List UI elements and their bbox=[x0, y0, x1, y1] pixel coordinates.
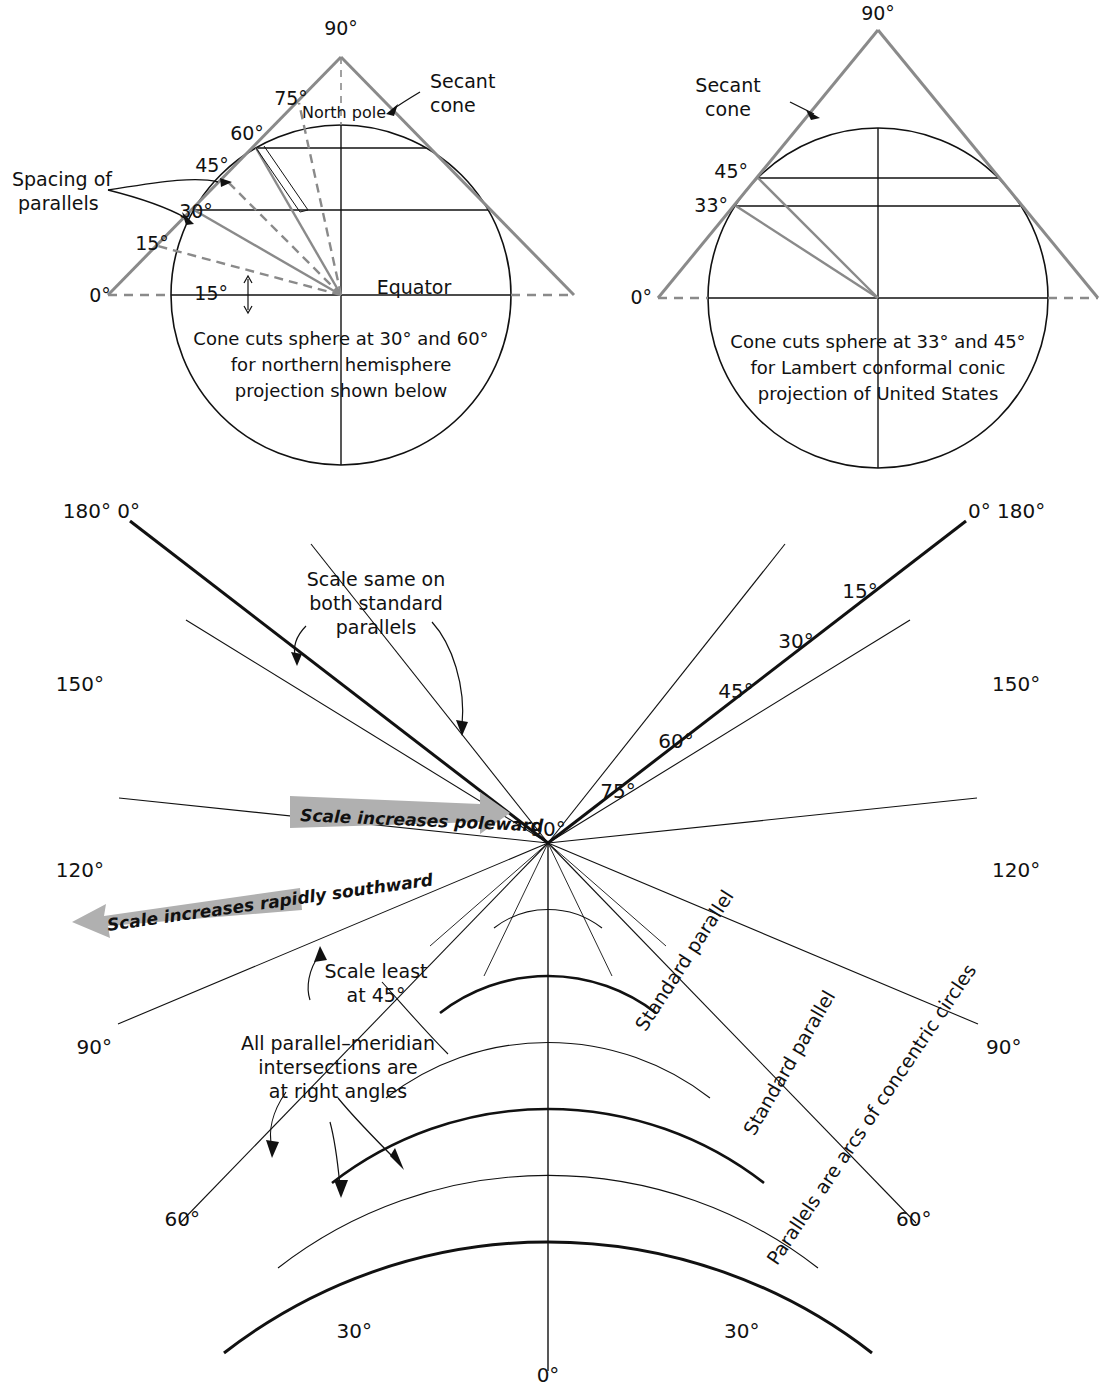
meridian-left-120 bbox=[118, 843, 548, 1024]
right-caption-1: Cone cuts sphere at 33° and 45° bbox=[730, 331, 1025, 352]
banner-poleward-text: Scale increases poleward bbox=[300, 805, 545, 836]
lat-label-45: 45° bbox=[718, 679, 753, 703]
arrowhead-right-angles-c bbox=[334, 1180, 348, 1198]
left-cone-diagram: 90° 75° 60° 45° 30° 15° 0° Secant cone N… bbox=[0, 0, 600, 480]
anatolia-shape bbox=[610, 1060, 684, 1092]
pole-label: 90° bbox=[530, 817, 565, 841]
greenland-shape bbox=[444, 862, 528, 976]
left-label-60: 60° bbox=[230, 122, 264, 144]
right-meridian-label-90: 90° bbox=[986, 1035, 1021, 1059]
europe-shape bbox=[430, 988, 614, 1136]
ann-standard-parallel-inner: Standard parallel bbox=[630, 886, 737, 1035]
ann-right-angles-3: at right angles bbox=[269, 1080, 407, 1102]
africa-shape bbox=[436, 1120, 756, 1362]
interior-angle-label: 15° bbox=[194, 282, 228, 304]
cone-right-side-right bbox=[878, 30, 1098, 298]
left-label-45: 45° bbox=[195, 154, 229, 176]
right-cone-diagram: 90° 45° 33° 0° Secant cone Cone cuts sph… bbox=[600, 0, 1119, 480]
spacing-leader-lower bbox=[108, 190, 186, 218]
ann-scale-same-3: parallels bbox=[336, 616, 417, 638]
right-caption-2: for Lambert conformal conic bbox=[751, 357, 1006, 378]
secant-cone-leader-right bbox=[790, 102, 814, 114]
arabia-shape bbox=[680, 1148, 746, 1216]
secant-cone-label-right-2: cone bbox=[705, 98, 751, 120]
ann-standard-parallel-outer: Standard parallel bbox=[739, 986, 840, 1138]
left-label-0: 0° bbox=[89, 284, 111, 306]
arrowhead-scale-same-right bbox=[456, 720, 468, 736]
radius-60 bbox=[256, 148, 341, 295]
north-pole-label: North pole bbox=[302, 103, 386, 122]
spacing-label-2: parallels bbox=[18, 192, 99, 214]
radius-45-right bbox=[758, 178, 878, 298]
construction-line-a bbox=[256, 148, 300, 212]
secant-cone-label-2: cone bbox=[430, 94, 476, 116]
left-meridian-label-120: 120° bbox=[56, 858, 104, 882]
secant-cone-label-1: Secant bbox=[430, 70, 495, 92]
banner-southward: Scale increases rapidly southward bbox=[72, 869, 435, 938]
iberia-shape bbox=[512, 1086, 548, 1118]
left-caption-2: for northern hemisphere bbox=[231, 354, 451, 375]
main-projection-diagram: Scale increases poleward Scale increases… bbox=[0, 476, 1119, 1396]
radius-33 bbox=[736, 206, 878, 298]
ann-scale-least-1: Scale least bbox=[324, 960, 427, 982]
right-label-0: 0° bbox=[630, 286, 652, 308]
figure-root: 90° 75° 60° 45° 30° 15° 0° Secant cone N… bbox=[0, 0, 1119, 1396]
left-label-30: 30° bbox=[179, 200, 213, 222]
banner-southward-text: Scale increases rapidly southward bbox=[106, 869, 435, 935]
leader-scale-same-right bbox=[432, 622, 463, 726]
meridian-right-120 bbox=[548, 843, 978, 1024]
right-label-45: 45° bbox=[714, 160, 748, 182]
arrowhead-scale-same-left bbox=[291, 652, 302, 666]
lat-label-60: 60° bbox=[658, 729, 693, 753]
right-meridian-label-60: 60° bbox=[896, 1207, 931, 1231]
corner-right-label: 0° 180° bbox=[968, 499, 1045, 523]
left-meridian-label-60: 60° bbox=[165, 1207, 200, 1231]
ann-right-angles-1: All parallel–meridian bbox=[241, 1032, 435, 1054]
lat-label-75: 75° bbox=[600, 779, 635, 803]
meridian-right-90 bbox=[548, 798, 977, 843]
ann-scale-least-2: at 45° bbox=[347, 984, 406, 1006]
right-caption-3: projection of United States bbox=[758, 383, 999, 404]
spacing-leader-upper bbox=[108, 180, 218, 190]
banner-poleward: Scale increases poleward bbox=[290, 792, 544, 836]
left-label-90: 90° bbox=[324, 17, 358, 39]
ann-concentric-circles: Parallels are arcs of concentric circles bbox=[762, 960, 980, 1269]
left-meridian-label-30: 30° bbox=[337, 1319, 372, 1343]
equator-label: Equator bbox=[377, 276, 452, 298]
spacing-label-1: Spacing of bbox=[12, 168, 113, 190]
right-meridian-label-150: 150° bbox=[992, 672, 1040, 696]
right-label-33: 33° bbox=[694, 194, 728, 216]
leader-right-angles-c bbox=[330, 1122, 340, 1186]
left-label-15: 15° bbox=[135, 232, 169, 254]
left-meridian-label-90: 90° bbox=[77, 1035, 112, 1059]
corner-left-label: 180° 0° bbox=[63, 499, 140, 523]
left-meridian-label-150: 150° bbox=[56, 672, 104, 696]
leader-right-angles-b bbox=[338, 1098, 398, 1162]
left-caption-3: projection shown below bbox=[235, 380, 448, 401]
right-meridian-label-120: 120° bbox=[992, 858, 1040, 882]
meridian-fine-a bbox=[430, 843, 548, 946]
arrowhead-right-angles-a bbox=[266, 1140, 279, 1158]
cone-right-side bbox=[341, 57, 574, 295]
lat-label-30: 30° bbox=[778, 629, 813, 653]
radius-75 bbox=[299, 103, 341, 295]
left-caption-1: Cone cuts sphere at 30° and 60° bbox=[193, 328, 488, 349]
lat-label-15: 15° bbox=[842, 579, 877, 603]
arrowhead-right-angles-b bbox=[390, 1148, 404, 1170]
bottom-meridian-label-0: 0° bbox=[537, 1363, 560, 1387]
ann-scale-same-2: both standard bbox=[309, 592, 443, 614]
cone-left-side-right bbox=[658, 30, 878, 298]
right-label-90: 90° bbox=[861, 2, 895, 24]
ann-scale-same-1: Scale same on bbox=[307, 568, 446, 590]
right-meridian-label-30: 30° bbox=[724, 1319, 759, 1343]
meridian-right-60 bbox=[548, 620, 910, 843]
ann-right-angles-2: intersections are bbox=[258, 1056, 417, 1078]
secant-cone-label-right-1: Secant bbox=[695, 74, 760, 96]
british-isles-shape bbox=[518, 998, 544, 1032]
meridians-group bbox=[118, 521, 978, 1371]
meridian-fine-d bbox=[548, 843, 666, 946]
